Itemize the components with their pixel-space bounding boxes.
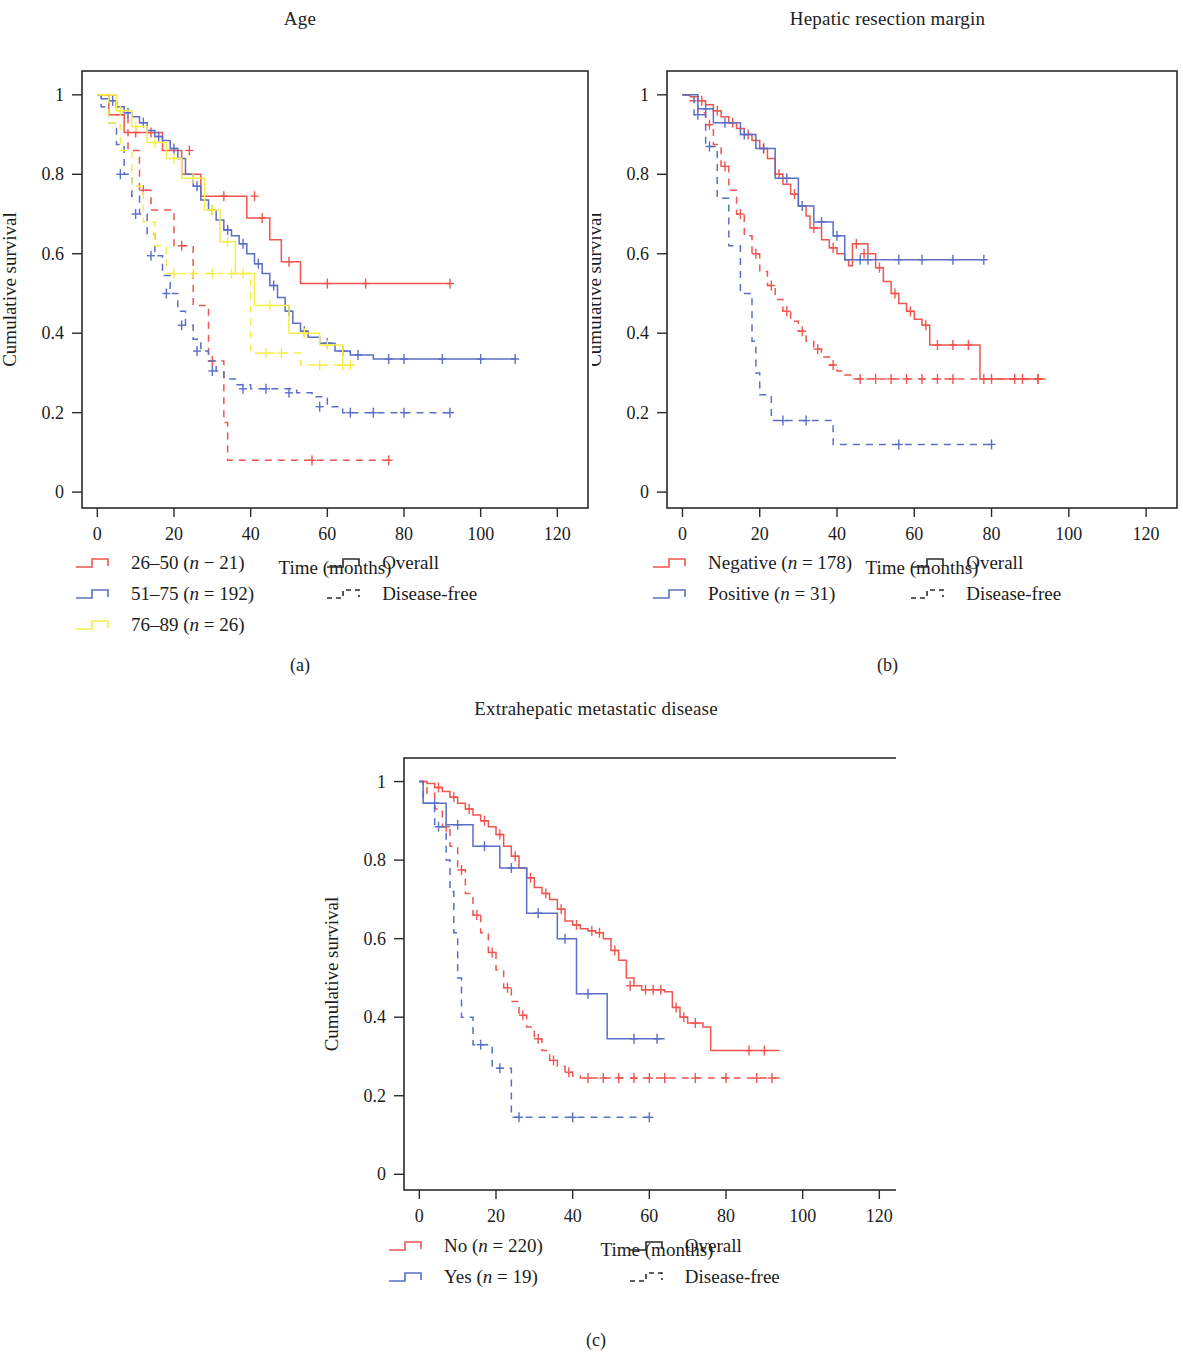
legend-item-label: No (n = 220) — [444, 1235, 543, 1257]
legend-item-label: Overall — [966, 552, 1023, 574]
legend-item-label: 76–89 (n = 26) — [131, 614, 245, 636]
panel-a-legend-groups: 26–50 (n − 21)51–75 (n = 192)76–89 (n = … — [75, 552, 254, 636]
panel-b-plot: 02040608010012000.20.40.60.81Time (month… — [592, 30, 1183, 590]
y-axis-title: Cumulative survival — [592, 212, 605, 367]
legend-item-label: Overall — [382, 552, 439, 574]
panel-c-plot: 02040608010012000.20.40.60.81Time (month… — [296, 720, 896, 1270]
x-tick-label: 40 — [242, 524, 260, 544]
legend-item-label: Disease-free — [966, 583, 1061, 605]
legend-step-icon — [652, 586, 698, 602]
legend-item-label: Positive (n = 31) — [708, 583, 835, 605]
legend-item-label: Disease-free — [382, 583, 477, 605]
y-tick-label: 0.6 — [364, 929, 387, 949]
legend-item[interactable]: Overall — [629, 1235, 780, 1257]
x-tick-label: 120 — [544, 524, 571, 544]
legend-item-label: Yes (n = 19) — [444, 1266, 538, 1288]
panel-b-caption: (b) — [592, 655, 1183, 676]
x-tick-label: 40 — [828, 524, 846, 544]
y-tick-label: 0.2 — [364, 1086, 387, 1106]
x-tick-label: 100 — [789, 1206, 816, 1226]
x-tick-label: 120 — [1133, 524, 1160, 544]
panel-a-plot: 02040608010012000.20.40.60.81Time (month… — [0, 30, 600, 590]
legend-step-icon — [75, 555, 121, 571]
x-tick-label: 20 — [487, 1206, 505, 1226]
panel-b-legend-groups: Negative (n = 178)Positive (n = 31) — [652, 552, 852, 605]
panel-a-caption: (a) — [0, 655, 600, 676]
legend-item[interactable]: 76–89 (n = 26) — [75, 614, 254, 636]
survival-curve — [682, 95, 1045, 379]
legend-dashed-step-icon — [629, 1269, 675, 1285]
y-tick-label: 0.2 — [627, 403, 650, 423]
legend-step-icon — [388, 1238, 434, 1254]
y-tick-label: 0.4 — [627, 323, 650, 343]
x-tick-label: 100 — [1055, 524, 1082, 544]
y-axis-title: Cumulative survival — [321, 897, 342, 1052]
legend-item-label: Negative (n = 178) — [708, 552, 852, 574]
y-tick-label: 1 — [640, 85, 649, 105]
survival-curve — [682, 95, 1045, 379]
y-tick-label: 0.2 — [42, 403, 65, 423]
y-tick-label: 0.6 — [42, 244, 65, 264]
survival-curve — [419, 782, 779, 1051]
legend-step-icon — [326, 555, 372, 571]
y-tick-label: 1 — [377, 772, 386, 792]
legend-item[interactable]: 26–50 (n − 21) — [75, 552, 254, 574]
legend-step-icon — [75, 617, 121, 633]
kaplan-meier-figure: Age 02040608010012000.20.40.60.81Time (m… — [0, 0, 1183, 1361]
legend-item[interactable]: Overall — [910, 552, 1061, 574]
legend-dashed-step-icon — [910, 586, 956, 602]
legend-item[interactable]: Disease-free — [629, 1266, 780, 1288]
legend-step-icon — [910, 555, 956, 571]
y-tick-label: 0.4 — [364, 1007, 387, 1027]
x-tick-label: 0 — [678, 524, 687, 544]
legend-item[interactable]: 51–75 (n = 192) — [75, 583, 254, 605]
legend-dashed-step-icon — [326, 586, 372, 602]
panel-b-legend-measures: OverallDisease-free — [910, 552, 1061, 605]
x-tick-label: 0 — [415, 1206, 424, 1226]
legend-item[interactable]: Negative (n = 178) — [652, 552, 852, 574]
x-tick-label: 120 — [866, 1206, 893, 1226]
survival-curve — [682, 95, 991, 445]
x-tick-label: 80 — [983, 524, 1001, 544]
panel-a-legend-measures: OverallDisease-free — [326, 552, 477, 636]
legend-step-icon — [629, 1238, 675, 1254]
x-tick-label: 40 — [564, 1206, 582, 1226]
panel-c-title: Extrahepatic metastatic disease — [296, 690, 896, 720]
x-tick-label: 80 — [395, 524, 413, 544]
x-tick-label: 80 — [717, 1206, 735, 1226]
legend-item[interactable]: No (n = 220) — [388, 1235, 543, 1257]
panel-c-legend: No (n = 220)Yes (n = 19) OverallDisease-… — [388, 1235, 780, 1288]
legend-item-label: Disease-free — [685, 1266, 780, 1288]
legend-item[interactable]: Positive (n = 31) — [652, 583, 852, 605]
legend-step-icon — [388, 1269, 434, 1285]
y-tick-label: 0.8 — [627, 164, 650, 184]
panel-c-legend-groups: No (n = 220)Yes (n = 19) — [388, 1235, 543, 1288]
x-tick-label: 0 — [93, 524, 102, 544]
legend-step-icon — [75, 586, 121, 602]
legend-item[interactable]: Overall — [326, 552, 477, 574]
survival-curve — [419, 782, 664, 1039]
y-tick-label: 0 — [377, 1164, 386, 1184]
y-tick-label: 0.4 — [42, 323, 65, 343]
legend-item[interactable]: Yes (n = 19) — [388, 1266, 543, 1288]
legend-item[interactable]: Disease-free — [326, 583, 477, 605]
legend-item-label: Overall — [685, 1235, 742, 1257]
survival-curve — [682, 95, 983, 260]
legend-item-label: 51–75 (n = 192) — [131, 583, 254, 605]
x-tick-label: 20 — [751, 524, 769, 544]
legend-item-label: 26–50 (n − 21) — [131, 552, 245, 574]
y-tick-label: 0.6 — [627, 244, 650, 264]
panel-b: Hepatic resection margin 020406080100120… — [592, 0, 1183, 690]
x-tick-label: 100 — [467, 524, 494, 544]
x-tick-label: 60 — [640, 1206, 658, 1226]
y-tick-label: 0.8 — [42, 164, 65, 184]
x-tick-label: 60 — [905, 524, 923, 544]
panel-c: Extrahepatic metastatic disease 02040608… — [296, 690, 896, 1361]
x-tick-label: 20 — [165, 524, 183, 544]
legend-item[interactable]: Disease-free — [910, 583, 1061, 605]
panel-c-caption: (c) — [296, 1330, 896, 1351]
x-tick-label: 60 — [318, 524, 336, 544]
panel-a: Age 02040608010012000.20.40.60.81Time (m… — [0, 0, 600, 690]
panel-c-legend-measures: OverallDisease-free — [629, 1235, 780, 1288]
panel-a-title: Age — [0, 0, 600, 30]
